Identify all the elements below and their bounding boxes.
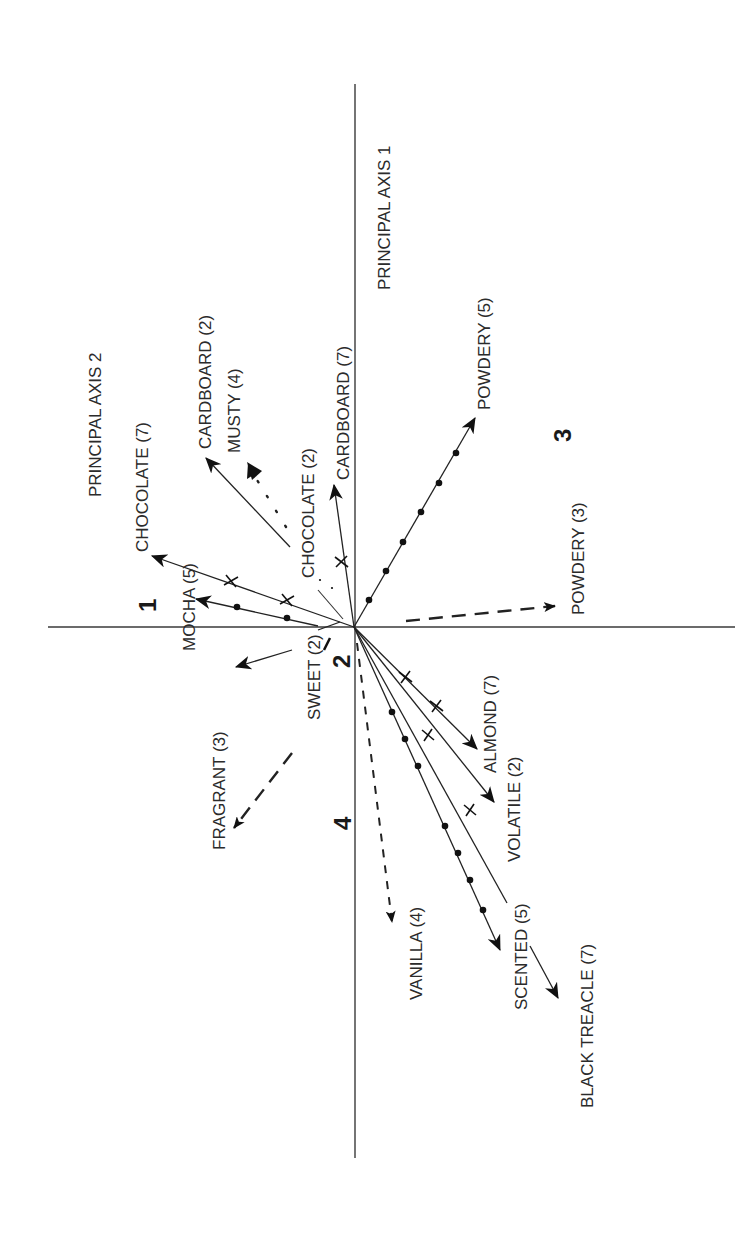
vector-cardboard-7 [334, 485, 354, 627]
label-vanilla-4: VANILLA (4) [407, 907, 426, 1000]
label-volatile-2: VOLATILE (2) [505, 757, 524, 863]
label-almond-7: ALMOND (7) [481, 675, 500, 773]
vector-volatile-2 [354, 627, 494, 802]
label-sweet-2: SWEET (2) [305, 634, 324, 720]
biplot-figure: PRINCIPAL AXIS 1 PRINCIPAL AXIS 2 1 2 3 … [0, 0, 752, 1260]
cluster-3-label: 3 [549, 429, 576, 442]
cluster-4-label: 4 [329, 816, 356, 830]
vector-powdery-5 [354, 418, 475, 627]
vector-sweet-2 [236, 622, 340, 667]
cluster-1-label: 1 [134, 599, 161, 612]
label-cardboard-7: CARDBOARD (7) [334, 346, 353, 480]
label-powdery-3: POWDERY (3) [569, 502, 588, 615]
label-musty-4: MUSTY (4) [225, 368, 244, 453]
principal-axis-2-label: PRINCIPAL AXIS 2 [86, 352, 105, 497]
label-scented-5: SCENTED (5) [512, 903, 531, 1010]
vector-chocolate-2 [318, 579, 343, 619]
principal-axis-1-label: PRINCIPAL AXIS 1 [375, 145, 394, 290]
cluster-2-label: 2 [328, 655, 355, 668]
vector-almond-7 [354, 627, 477, 749]
label-powdery-5: POWDERY (5) [475, 297, 494, 410]
cross-marker [224, 575, 294, 606]
cluster-2-underline [324, 638, 330, 650]
vector-powdery-3 [406, 606, 555, 621]
label-black-treacle-7: BLACK TREACLE (7) [578, 944, 597, 1108]
label-cardboard-2: CARDBOARD (2) [196, 315, 215, 449]
label-fragrant-3: FRAGRANT (3) [210, 731, 229, 850]
vector-fragrant-3 [234, 753, 292, 828]
label-chocolate-7: CHOCOLATE (7) [133, 422, 152, 552]
vector-musty-4 [247, 462, 286, 527]
label-mocha-5: MOCHA (5) [180, 563, 199, 651]
label-chocolate-2: CHOCOLATE (2) [299, 448, 318, 578]
vector-mocha-5 [196, 599, 318, 626]
